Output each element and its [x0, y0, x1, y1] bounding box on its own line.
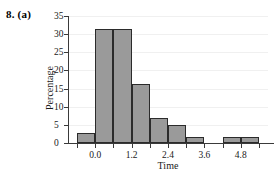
x-tick-label: 4.8	[235, 150, 247, 160]
x-tick	[95, 144, 96, 148]
y-tick	[64, 89, 68, 90]
x-tick-label: 0.0	[89, 150, 101, 160]
x-tick	[150, 144, 151, 148]
y-tick	[64, 52, 68, 53]
x-tick-label: 2.4	[162, 150, 174, 160]
histogram-bar	[132, 84, 150, 144]
figure-label: 8. (a)	[6, 8, 31, 20]
x-tick	[77, 144, 78, 148]
x-tick	[132, 144, 133, 148]
x-axis-title: Time	[68, 160, 268, 171]
plot-frame: 05101520253035 0.01.22.43.64.8	[68, 16, 268, 143]
x-tick-label: 1.2	[126, 150, 138, 160]
x-tick	[186, 144, 187, 148]
histogram-bar	[150, 118, 168, 143]
y-tick-label: 5	[54, 120, 58, 130]
histogram-bar	[77, 133, 95, 143]
y-tick	[64, 34, 68, 35]
x-tick	[204, 144, 205, 148]
y-tick-label: 25	[54, 47, 58, 57]
figure-panel: 8. (a) Percentage Time 05101520253035 0.…	[0, 0, 277, 176]
x-tick	[241, 144, 242, 148]
x-tick	[259, 144, 260, 148]
y-tick-label: 15	[54, 84, 58, 94]
y-tick	[64, 70, 68, 71]
y-tick-label: 35	[54, 11, 58, 21]
x-tick	[113, 144, 114, 148]
x-tick	[168, 144, 169, 148]
y-tick-label: 0	[54, 138, 58, 148]
y-tick-label: 20	[54, 65, 58, 75]
histogram-bar	[113, 29, 131, 143]
x-tick-label: 3.6	[198, 150, 210, 160]
y-axis-line	[68, 16, 69, 143]
gridline	[68, 16, 268, 17]
histogram-plot: 05101520253035 0.01.22.43.64.8	[68, 16, 268, 143]
y-tick-label: 30	[54, 29, 58, 39]
histogram-bar	[95, 29, 113, 143]
y-tick	[64, 125, 68, 126]
y-tick	[64, 16, 68, 17]
histogram-bar	[168, 125, 186, 143]
y-tick	[64, 107, 68, 108]
y-tick	[64, 143, 68, 144]
y-tick-label: 10	[54, 102, 58, 112]
x-tick	[223, 144, 224, 148]
